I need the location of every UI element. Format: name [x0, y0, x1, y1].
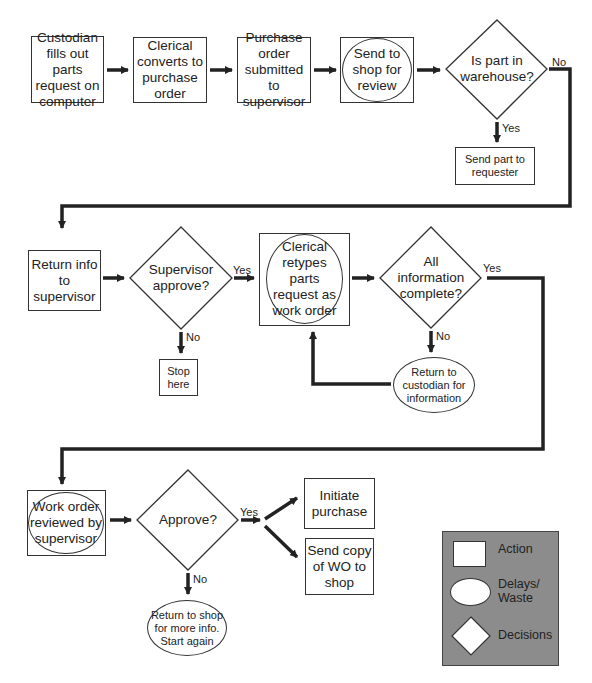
node-return-to-shop: Return to shop for more info. Start agai… [147, 600, 227, 656]
edge-label-approve-yes: Yes [240, 506, 258, 518]
node-label: Supervisor approve? [149, 262, 214, 294]
node-label: Initiate purchase [312, 488, 368, 520]
node-return-info: Return info to supervisor [28, 250, 101, 311]
node-label: Return info to supervisor [31, 257, 97, 305]
legend-decisions-label: Decisions [498, 628, 552, 642]
node-label: Work order reviewed by supervisor [30, 499, 102, 547]
node-clerical-retypes: Clerical retypes parts request as work o… [259, 233, 350, 326]
legend-decision-icon [451, 616, 491, 656]
legend: Action Delays/ Waste Decisions [442, 531, 559, 666]
node-send-part: Send part to requester [455, 147, 535, 185]
node-stop-here: Stop here [159, 359, 198, 396]
delay-ellipse: Clerical retypes parts request as work o… [266, 234, 343, 324]
node-send-to-shop: Send to shop for review [340, 37, 414, 103]
node-label: Return to shop for more info. Start agai… [151, 609, 223, 648]
node-label: Send copy of WO to shop [308, 543, 372, 591]
node-label: Custodian fills out parts request on com… [32, 30, 103, 110]
node-send-copy: Send copy of WO to shop [305, 538, 374, 595]
edge-label-supervisor-no: No [186, 331, 200, 343]
node-label: Clerical retypes parts request as work o… [273, 239, 337, 319]
node-label: Is part in warehouse? [460, 53, 534, 85]
node-label: Approve? [159, 512, 217, 528]
node-label: Stop here [167, 365, 190, 391]
delay-ellipse: Send to shop for review [342, 38, 412, 102]
edge-label-warehouse-yes: Yes [502, 122, 520, 134]
node-label: Send to shop for review [353, 46, 402, 94]
node-label: Purchase order submitted to supervisor [238, 30, 310, 110]
node-label: All information complete? [398, 254, 465, 302]
edge-label-supervisor-yes: Yes [233, 264, 251, 276]
edge-label-complete-yes: Yes [483, 262, 501, 274]
node-custodian-fills: Custodian fills out parts request on com… [31, 36, 104, 103]
node-label: Send part to requester [465, 153, 525, 179]
edge-label-approve-no: No [193, 573, 207, 585]
node-label: Return to custodian for information [403, 366, 466, 405]
legend-action-icon [453, 541, 486, 567]
edge-label-complete-no: No [436, 330, 450, 342]
decision-approve: Approve? [137, 505, 239, 535]
legend-delays-label: Delays/ Waste [498, 577, 540, 605]
node-initiate-purchase: Initiate purchase [304, 478, 375, 529]
edge-label-warehouse-no: No [552, 56, 566, 68]
node-label: Clerical converts to purchase order [137, 38, 203, 102]
delay-ellipse: Work order reviewed by supervisor [28, 492, 104, 554]
decision-supervisor: Supervisor approve? [130, 254, 232, 302]
node-clerical-converts: Clerical converts to purchase order [133, 37, 207, 103]
node-wo-reviewed: Work order reviewed by supervisor [27, 490, 106, 556]
decision-complete: All information complete? [380, 254, 482, 302]
legend-action-label: Action [498, 542, 533, 556]
node-return-to-custodian: Return to custodian for information [393, 357, 475, 413]
legend-delay-icon [450, 578, 491, 606]
decision-warehouse: Is part in warehouse? [446, 45, 548, 93]
node-po-submitted: Purchase order submitted to supervisor [237, 37, 311, 103]
